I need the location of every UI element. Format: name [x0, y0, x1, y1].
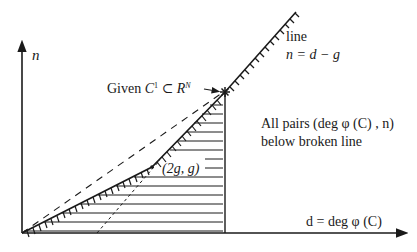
- given-subset: ⊂: [158, 81, 177, 96]
- broken-line: [22, 12, 296, 233]
- region-text-line1: All pairs (deg φ (C) , n): [261, 117, 394, 131]
- kink-point-label: (2g, g): [162, 162, 199, 176]
- hatch-lower: [27, 169, 149, 237]
- given-label: Given C1 ⊂ RN: [107, 82, 191, 96]
- line-label: line: [286, 30, 307, 44]
- given-prefix: Given: [107, 81, 145, 96]
- given-r-sup: N: [185, 81, 190, 90]
- y-axis-label: n: [32, 48, 40, 63]
- x-axis-label: d = deg φ (C): [306, 215, 382, 229]
- line-equation: n = d − g: [286, 48, 340, 62]
- hatch-middle: [157, 100, 221, 167]
- star-icon: [220, 87, 230, 97]
- region-text-line2: below broken line: [261, 135, 362, 149]
- kink-point: [150, 165, 154, 169]
- given-arrow: [204, 89, 216, 91]
- given-c: C: [145, 81, 154, 96]
